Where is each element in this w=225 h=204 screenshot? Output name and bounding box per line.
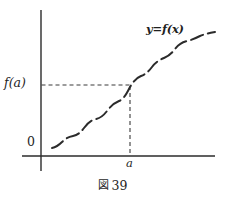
x-value-label: a	[126, 158, 133, 170]
figure-caption: 図39	[0, 180, 225, 193]
function-curve	[52, 32, 215, 148]
figure-container: f(a) 0 a y=f(x) 図39	[0, 0, 225, 204]
figure-caption-number: 39	[112, 180, 128, 193]
graph-canvas	[0, 0, 225, 204]
y-value-label: f(a)	[4, 77, 26, 90]
origin-label: 0	[27, 136, 35, 149]
curve-function-label: y=f(x)	[146, 24, 184, 36]
figure-caption-mark: 図	[98, 180, 109, 191]
